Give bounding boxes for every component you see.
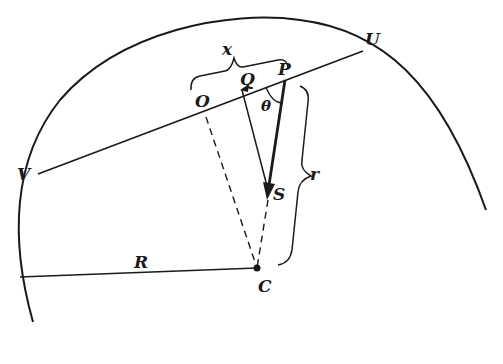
diagram-canvas: x O Q P θ U V S r R C <box>0 0 503 364</box>
label-u: U <box>365 29 381 49</box>
arrow-ps <box>269 80 285 185</box>
dashed-sc <box>257 200 268 268</box>
circle-arc <box>19 18 486 322</box>
dashed-oc <box>206 117 257 268</box>
brace-r <box>278 86 311 265</box>
label-x: x <box>221 39 233 59</box>
label-o: O <box>195 91 210 111</box>
label-q: Q <box>240 69 255 89</box>
label-s: S <box>273 184 285 204</box>
label-theta: θ <box>261 97 271 115</box>
chord-vu <box>38 51 363 174</box>
label-p: P <box>277 59 292 79</box>
label-r-big: R <box>133 252 148 272</box>
label-v: V <box>17 164 32 184</box>
center-point <box>254 265 261 272</box>
label-r: r <box>310 164 320 184</box>
label-c: C <box>258 276 272 296</box>
